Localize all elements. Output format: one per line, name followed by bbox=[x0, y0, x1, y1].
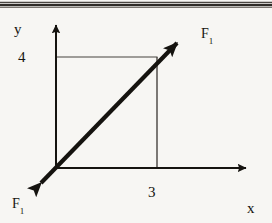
x-tick-label-3: 3 bbox=[148, 185, 156, 200]
force-vector-label-head: F1 bbox=[201, 27, 213, 44]
y-tick-label-4: 4 bbox=[18, 50, 26, 65]
y-axis-label: y bbox=[14, 22, 22, 37]
force-vector-label-tail-subscript: 1 bbox=[20, 206, 25, 216]
x-axis-label: x bbox=[247, 201, 255, 216]
figure-page: y x 4 3 F1 F1 bbox=[0, 0, 272, 223]
vector-diagram bbox=[0, 0, 272, 223]
force-vector-label-tail-base: F bbox=[12, 196, 20, 211]
force-vector-label-head-base: F bbox=[201, 26, 209, 41]
force-vector-label-head-subscript: 1 bbox=[209, 36, 214, 46]
force-vector-label-tail: F1 bbox=[12, 197, 24, 214]
